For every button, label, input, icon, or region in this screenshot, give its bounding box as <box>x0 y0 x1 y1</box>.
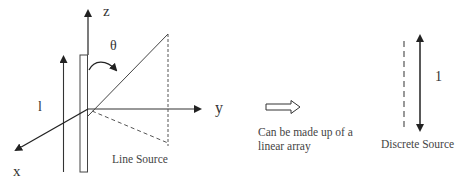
line-source-caption: Line Source <box>112 154 168 166</box>
diagram-canvas <box>0 0 457 183</box>
projection-ground-dashed <box>92 111 168 143</box>
hollow-right-arrow-icon <box>266 101 300 114</box>
array-caption-line2: linear array <box>258 141 311 153</box>
length-label-l: l <box>38 100 42 114</box>
x-axis-label: x <box>13 164 21 179</box>
x-axis <box>16 109 88 150</box>
array-caption-line1: Can be made up of a <box>258 127 353 139</box>
discrete-source-caption: Discrete Source <box>381 139 454 151</box>
theta-label: θ <box>110 39 117 53</box>
theta-arc-arrow <box>89 62 116 70</box>
z-axis-label: z <box>103 4 110 19</box>
discrete-length-label: 1 <box>435 70 442 84</box>
y-axis-label: y <box>215 100 223 116</box>
observation-line <box>88 34 168 116</box>
